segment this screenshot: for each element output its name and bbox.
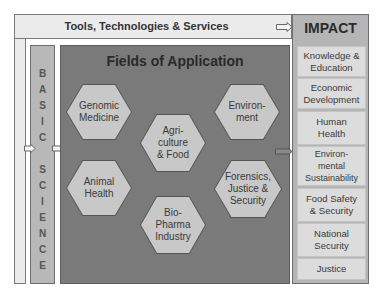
impact-item-economic-development: Economic Development bbox=[297, 78, 366, 109]
impact-title: IMPACT bbox=[292, 20, 369, 36]
basic-science-letter: C bbox=[31, 180, 54, 191]
basic-science-letter: C bbox=[31, 132, 54, 143]
basic-science-column: B A S I C S C I E N C E bbox=[30, 45, 55, 284]
impact-item-knowledge-education: Knowledge & Education bbox=[297, 46, 366, 77]
basic-science-letter: C bbox=[31, 244, 54, 255]
basic-science-letter: E bbox=[31, 212, 54, 223]
basic-science-letter: S bbox=[31, 164, 54, 175]
impact-item-national-security: National Security bbox=[297, 223, 366, 257]
impact-item-food-safety-security: Food Safety & Security bbox=[297, 188, 366, 222]
arrow-right-icon bbox=[275, 148, 293, 155]
arrow-right-icon bbox=[276, 22, 293, 32]
left-feed-strip bbox=[14, 38, 26, 284]
impact-item-environmental-sustainability: Environ- mental Sustainability bbox=[297, 146, 366, 186]
basic-science-letter: B bbox=[31, 68, 54, 79]
basic-science-letter: N bbox=[31, 228, 54, 239]
fields-title: Fields of Application bbox=[60, 53, 290, 69]
impact-item-human-health: Human Health bbox=[297, 111, 366, 145]
basic-science-letter: I bbox=[31, 116, 54, 127]
arrow-right-icon bbox=[24, 144, 36, 153]
basic-science-letter: E bbox=[31, 260, 54, 271]
basic-science-letter: S bbox=[31, 100, 54, 111]
basic-science-letter: A bbox=[31, 84, 54, 95]
tools-bar-label: Tools, Technologies & Services bbox=[14, 14, 279, 39]
impact-item-justice: Justice bbox=[297, 258, 366, 280]
basic-science-letter: I bbox=[31, 196, 54, 207]
